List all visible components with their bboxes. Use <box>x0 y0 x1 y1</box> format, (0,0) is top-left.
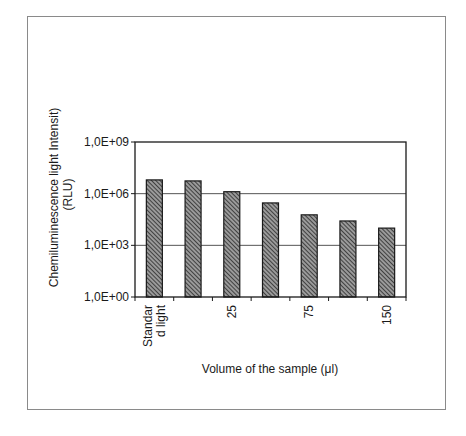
bar <box>185 181 201 297</box>
bar <box>379 228 395 297</box>
x-tick-label: Standar <box>141 305 155 347</box>
x-tick-label: 150 <box>380 305 394 325</box>
x-axis-title: Volume of the sample (μl) <box>202 362 338 376</box>
bar-chart: 1,0E+001,0E+031,0E+061,0E+09 Standard li… <box>0 0 466 436</box>
bar <box>146 180 162 297</box>
y-axis-tick-labels: 1,0E+001,0E+031,0E+061,0E+09 <box>84 135 129 304</box>
bars <box>146 180 394 297</box>
bar <box>301 215 317 297</box>
x-tick-label: d light <box>154 304 168 337</box>
x-tick-label: 75 <box>302 305 316 319</box>
y-axis-title: Chemiluminescence light Intensit)(RLU) <box>47 108 75 287</box>
bar <box>224 192 240 297</box>
y-tick-label: 1,0E+06 <box>84 187 129 201</box>
y-tick-label: 1,0E+03 <box>84 238 129 252</box>
bar <box>263 203 279 297</box>
x-tick-label: 25 <box>225 305 239 319</box>
y-axis-title-line: (RLU) <box>61 178 75 210</box>
bar <box>340 221 356 297</box>
x-axis-tick-labels: Standard light2575150 <box>141 304 394 347</box>
y-axis-title-line: Chemiluminescence light Intensit) <box>47 108 61 287</box>
y-tick-label: 1,0E+00 <box>84 290 129 304</box>
y-tick-label: 1,0E+09 <box>84 135 129 149</box>
